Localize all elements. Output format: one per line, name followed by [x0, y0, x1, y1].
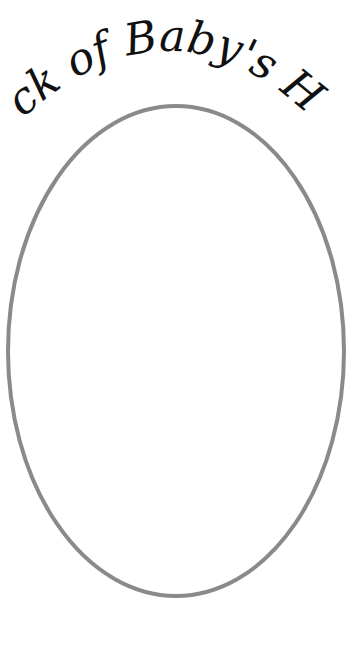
card-artwork: Lock of Baby's Hair [0, 0, 363, 658]
keepsake-card: Lock of Baby's Hair [0, 0, 363, 658]
oval-frame [8, 106, 344, 596]
